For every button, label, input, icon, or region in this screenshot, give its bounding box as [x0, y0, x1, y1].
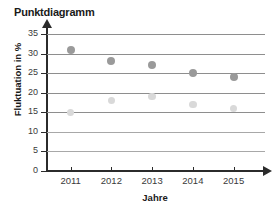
y-axis-tick-label: 0 — [16, 165, 38, 175]
data-point — [230, 73, 238, 81]
gridline — [47, 93, 265, 94]
data-point — [108, 97, 116, 105]
y-axis-title: Fluktuation in % — [12, 35, 23, 125]
gridline — [47, 112, 265, 113]
x-axis-tick — [193, 167, 194, 172]
data-point — [107, 57, 115, 65]
punktdiagramm-chart: Punktdiagramm 05101520253035 20112012201… — [0, 0, 276, 216]
y-axis-arrow-icon — [42, 19, 52, 28]
data-point — [148, 61, 156, 69]
x-axis-tick — [111, 167, 112, 172]
data-point — [67, 46, 75, 54]
x-axis-tick-label: 2012 — [91, 175, 131, 186]
y-axis-tick — [41, 151, 46, 152]
x-axis-tick — [234, 167, 235, 172]
y-axis-tick — [41, 73, 46, 74]
data-point — [148, 93, 156, 101]
y-axis-tick — [41, 112, 46, 113]
y-axis-tick — [41, 132, 46, 133]
gridline — [47, 34, 265, 35]
x-axis-tick — [152, 167, 153, 172]
y-axis-tick-label: 5 — [16, 145, 38, 155]
data-point — [189, 69, 197, 77]
x-axis-tick-label: 2014 — [173, 175, 213, 186]
data-point — [189, 101, 197, 109]
x-axis-tick-label: 2015 — [214, 175, 254, 186]
chart-title: Punktdiagramm — [14, 6, 95, 18]
x-axis-tick — [71, 167, 72, 172]
x-axis-tick-label: 2013 — [132, 175, 172, 186]
gridline — [47, 151, 265, 152]
plot-area — [47, 34, 265, 171]
data-point — [230, 105, 238, 113]
x-axis-title: Jahre — [46, 192, 264, 203]
data-point — [67, 109, 75, 117]
gridline — [47, 132, 265, 133]
y-axis-tick-label: 10 — [16, 126, 38, 136]
y-axis-tick — [41, 93, 46, 94]
gridline — [47, 54, 265, 55]
y-axis-tick — [41, 171, 46, 172]
x-axis-tick-label: 2011 — [51, 175, 91, 186]
y-axis-tick — [41, 54, 46, 55]
y-axis-tick — [41, 34, 46, 35]
